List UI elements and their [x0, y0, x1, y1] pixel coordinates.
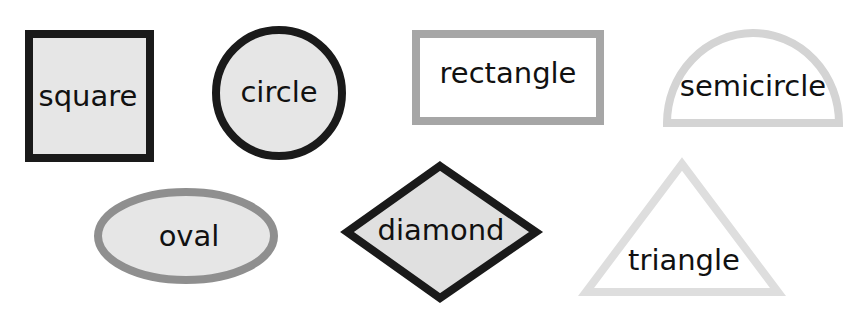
diamond-label: diamond — [377, 213, 504, 247]
shape-diamond: diamond — [347, 166, 536, 298]
shape-semicircle: semicircle — [667, 33, 839, 123]
shape-rectangle: rectangle — [416, 34, 600, 121]
shape-square: square — [29, 34, 150, 158]
square-label: square — [39, 79, 138, 113]
circle-label: circle — [240, 75, 317, 109]
shapes-diagram: square circle rectangle semicircle oval … — [0, 0, 856, 314]
rectangle-label: rectangle — [440, 56, 577, 90]
triangle-label: triangle — [628, 243, 740, 277]
shape-triangle: triangle — [586, 164, 778, 292]
semicircle-label: semicircle — [680, 69, 826, 103]
shape-oval: oval — [98, 192, 274, 280]
shape-circle: circle — [216, 30, 342, 156]
oval-label: oval — [159, 219, 220, 253]
